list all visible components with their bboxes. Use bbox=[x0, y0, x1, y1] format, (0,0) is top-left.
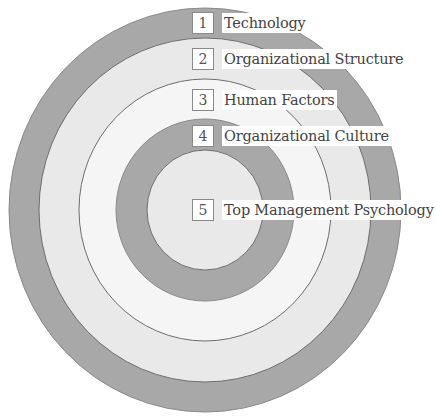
label-human-factors: 3 Human Factors bbox=[192, 89, 337, 111]
level-label: Top Management Psychology bbox=[222, 200, 436, 220]
level-number-box: 2 bbox=[192, 48, 214, 70]
label-technology: 1 Technology bbox=[192, 12, 308, 34]
level-number-box: 3 bbox=[192, 89, 214, 111]
label-top-management-psychology: 5 Top Management Psychology bbox=[192, 199, 436, 221]
level-number-box: 4 bbox=[192, 125, 214, 147]
level-label: Organizational Structure bbox=[222, 49, 405, 69]
level-label: Organizational Culture bbox=[222, 126, 391, 146]
label-organizational-structure: 2 Organizational Structure bbox=[192, 48, 405, 70]
label-organizational-culture: 4 Organizational Culture bbox=[192, 125, 391, 147]
level-label: Technology bbox=[222, 13, 308, 33]
level-label: Human Factors bbox=[222, 90, 337, 110]
level-number-box: 1 bbox=[192, 12, 214, 34]
level-number-box: 5 bbox=[192, 199, 214, 221]
